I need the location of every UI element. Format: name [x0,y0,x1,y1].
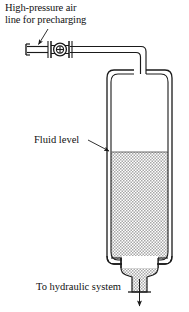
precharge-label-line2: line for precharging [5,14,86,26]
fluid-level-label: Fluid level [34,134,79,146]
pipe-inner-line [70,53,141,75]
precharge-leader-arrow [39,29,49,45]
fluid-level-leader-arrow [88,140,109,151]
precharge-label: High-pressure air line for precharging [5,2,86,27]
precharge-label-line1: High-pressure air [5,2,86,14]
outlet-label: To hydraulic system [36,281,121,293]
diagram-canvas: High-pressure air line for precharging F… [0,0,189,312]
accumulator-diagram [0,0,189,312]
fluid-region [108,152,174,264]
precharge-valve[interactable] [48,41,72,58]
